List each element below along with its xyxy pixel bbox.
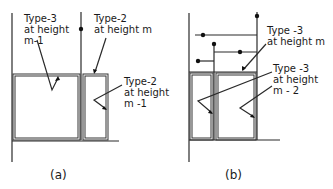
label-type3-m: at height m — [267, 36, 325, 47]
node-dot — [238, 50, 242, 54]
label-type2-m: at height m — [94, 24, 152, 35]
right-box-inner — [218, 75, 254, 138]
node-dot — [79, 27, 83, 31]
right-box-outer — [216, 73, 256, 140]
node-dot — [201, 33, 205, 37]
caption-a: (a) — [50, 168, 67, 182]
label-type3-m2: m - 2 — [273, 85, 299, 96]
label-type3: Type-3 — [23, 13, 57, 24]
label-type3: m-1 — [24, 35, 44, 46]
arrowhead — [55, 76, 60, 81]
leader-type3 — [37, 40, 58, 90]
type3-box-inner — [15, 76, 78, 138]
caption-b: (b) — [225, 168, 242, 182]
label-type2-m: Type-2 — [93, 13, 127, 24]
left-box-inner — [192, 75, 211, 138]
label-type3-m: Type -3 — [266, 25, 303, 36]
type3-box-outer — [13, 74, 80, 140]
node-dot — [196, 59, 200, 63]
leader-type3-m2-left — [198, 72, 272, 113]
leader-type3-m — [243, 44, 266, 70]
label-type2-m1: Type-2 — [123, 76, 157, 87]
left-box-outer — [190, 73, 213, 140]
figure-b: Type -3 at height m Type -3 at height m … — [189, 12, 325, 182]
label-type3: at height — [24, 24, 69, 35]
leader-type2-m — [95, 38, 106, 72]
diagram-canvas: Type-3 at height m-1 Type-2 at height m … — [0, 0, 333, 189]
figure-a: Type-3 at height m-1 Type-2 at height m … — [12, 12, 169, 182]
label-type3-m2: Type -3 — [272, 63, 309, 74]
arrowhead — [93, 69, 97, 74]
node-dot — [212, 42, 216, 46]
node-dot — [255, 14, 259, 18]
label-type2-m1: at height — [124, 87, 169, 98]
label-type2-m1: m -1 — [124, 98, 147, 109]
label-type3-m2: at height — [273, 74, 318, 85]
